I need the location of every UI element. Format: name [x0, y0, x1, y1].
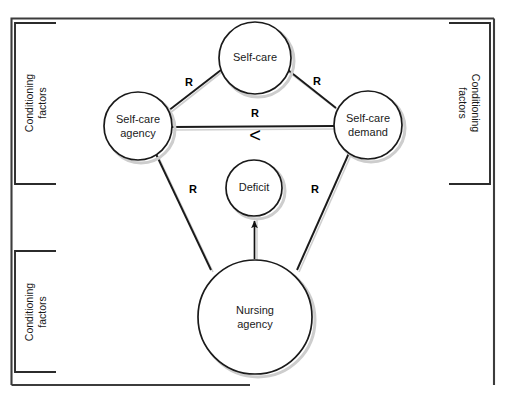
arrow-nursing-to-deficit: [255, 220, 258, 260]
bracket-label-line1: Conditioning: [23, 283, 35, 342]
edge-agency-to-nursing: [156, 154, 211, 270]
node-label-nursing-agency-line1: Nursing: [236, 304, 274, 316]
edge-demand-to-nursing: [297, 153, 349, 270]
bracket-label-line1: Conditioning: [23, 74, 35, 133]
node-deficit[interactable]: Deficit: [226, 160, 282, 216]
bracket-label-line2: factors: [36, 296, 48, 328]
node-self-care[interactable]: Self-care: [219, 22, 291, 94]
edge-agency-to-selfcare: [168, 70, 221, 111]
node-nursing-agency[interactable]: Nursing agency: [198, 260, 312, 374]
node-label-nursing-agency-line2: agency: [237, 318, 273, 330]
svg-text:<: <: [249, 124, 261, 146]
bracket-label-line2: factors: [457, 87, 469, 119]
edge-label-agency-to-selfcare: R: [185, 76, 193, 88]
bracket-label-line1: Conditioning: [470, 74, 482, 133]
node-label-self-care-demand-line1: Self-care: [346, 112, 390, 124]
edge-label-agency-to-nursing: R: [189, 183, 197, 195]
edge-label-demand-to-nursing: R: [311, 183, 319, 195]
edge-label-agency-to-demand: R: [251, 107, 259, 119]
diagram-canvas: Conditioning factors Conditioning factor…: [0, 0, 507, 396]
node-label-deficit: Deficit: [239, 181, 270, 193]
less-than-icon: <: [249, 124, 261, 146]
bracket-conditioning-factors-right: Conditioning factors: [449, 23, 490, 184]
bracket-conditioning-factors-bottom-left: Conditioning factors: [15, 251, 56, 372]
node-self-care-demand[interactable]: Self-care demand: [334, 91, 402, 159]
node-label-self-care-demand-line2: demand: [348, 126, 388, 138]
edge-label-selfcare-to-demand: R: [313, 75, 321, 87]
node-label-self-care-agency-line2: agency: [120, 127, 156, 139]
bracket-conditioning-factors-top-left: Conditioning factors: [15, 23, 56, 184]
self-care-deficit-theory-diagram: Conditioning factors Conditioning factor…: [0, 0, 507, 396]
node-self-care-agency[interactable]: Self-care agency: [104, 92, 172, 160]
bracket-label-line2: factors: [36, 87, 48, 119]
node-label-self-care-agency-line1: Self-care: [116, 113, 160, 125]
edge-selfcare-to-demand: [288, 70, 336, 108]
node-label-self-care: Self-care: [233, 51, 277, 63]
